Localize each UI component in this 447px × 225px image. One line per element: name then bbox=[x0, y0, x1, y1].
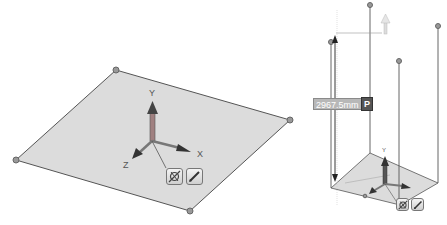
y-axis-label: Y bbox=[149, 88, 155, 98]
snap-icon bbox=[168, 170, 181, 183]
snap-toggle-button[interactable] bbox=[396, 198, 409, 211]
y-axis-arrow[interactable] bbox=[383, 165, 387, 184]
drag-up-handle-icon[interactable] bbox=[381, 14, 390, 34]
y-axis-arrow[interactable] bbox=[150, 112, 155, 141]
y-axis-label: Y bbox=[382, 147, 386, 153]
edit-direction-button[interactable] bbox=[411, 198, 424, 211]
edit-direction-button[interactable] bbox=[186, 168, 203, 185]
viewport-canvas[interactable]: Y X Z Y bbox=[0, 0, 447, 225]
vertex-handle[interactable] bbox=[287, 117, 293, 123]
pen-icon bbox=[413, 200, 423, 210]
dimension-value-field[interactable]: 2967.5mm bbox=[313, 98, 362, 110]
vertex-handle[interactable] bbox=[187, 208, 193, 214]
snap-icon bbox=[398, 200, 408, 210]
x-axis-label: X bbox=[197, 149, 203, 159]
vertex-handle[interactable] bbox=[397, 59, 402, 64]
vertex-handle[interactable] bbox=[368, 3, 373, 8]
vertex-handle[interactable] bbox=[113, 67, 119, 73]
vertex-handle[interactable] bbox=[363, 194, 367, 198]
parameter-button[interactable]: P bbox=[361, 97, 373, 111]
vertex-handle[interactable] bbox=[13, 157, 19, 163]
z-axis-label: Z bbox=[123, 160, 129, 170]
vertex-handle[interactable] bbox=[436, 24, 441, 29]
pen-icon bbox=[188, 170, 201, 183]
snap-toggle-button[interactable] bbox=[166, 168, 183, 185]
